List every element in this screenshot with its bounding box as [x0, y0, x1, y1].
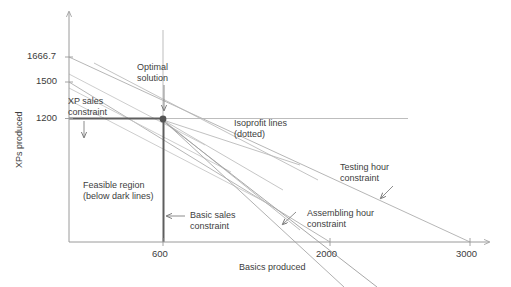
annotation-isoprofit-lines: Isoprofit lines (dotted): [234, 118, 287, 140]
annotation-basic-sales-constraint: Basic sales constraint: [190, 210, 236, 232]
optimal-solution-point: [160, 116, 167, 123]
x-tick-label-2000: 2000: [316, 248, 337, 259]
annotation-assembling-hour-constraint: Assembling hour constraint: [307, 208, 374, 230]
annotation-feasible-region: Feasible region (below dark lines): [83, 180, 154, 202]
x-axis-title: Basics produced: [239, 262, 306, 272]
lp-graph: [0, 0, 511, 287]
annotation-testing-hour-constraint: Testing hour constraint: [340, 162, 389, 184]
annotation-optimal-solution: Optimal solution: [137, 62, 168, 84]
x-tick-label-3000: 3000: [456, 248, 477, 259]
x-tick-label-600: 600: [152, 248, 168, 259]
y-tick-label-1500: 1500: [36, 75, 57, 86]
y-tick-label-1666: 1666.7: [27, 50, 56, 61]
line-testing-hour-constraint: [69, 57, 470, 242]
arrow-testing-hour-constraint: [381, 186, 393, 198]
y-axis-title: XPs produced: [14, 111, 24, 168]
annotation-xp-sales-constraint: XP sales constraint: [68, 96, 107, 118]
y-tick-label-1200: 1200: [36, 112, 57, 123]
chart-canvas: 1666.7 1500 1200 600 2000 3000 Basics pr…: [0, 0, 511, 287]
